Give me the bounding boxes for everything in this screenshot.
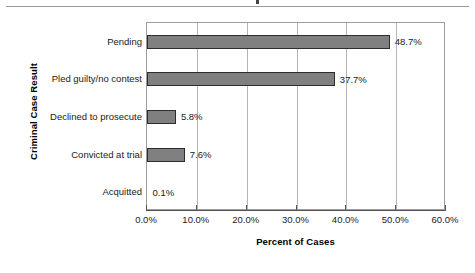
bar-value-label: 5.8% — [181, 110, 203, 124]
category-label: Convicted at trial — [2, 136, 142, 174]
x-axis-tick — [345, 205, 346, 211]
clipped-title-descender — [256, 0, 259, 4]
bar — [147, 110, 176, 124]
x-axis-tick — [395, 205, 396, 211]
x-axis-tick — [246, 205, 247, 211]
bar-row: Pending48.7% — [147, 23, 444, 61]
category-label: Acquitted — [2, 173, 142, 211]
category-label: Pending — [2, 23, 142, 61]
bar-row: Pled guilty/no contest37.7% — [147, 61, 444, 99]
bar-value-label: 37.7% — [340, 72, 367, 86]
bar-value-label: 7.6% — [190, 148, 212, 162]
bar — [147, 72, 335, 86]
x-axis-tick-label: 60.0% — [415, 214, 475, 225]
bar-value-label: 48.7% — [395, 35, 422, 49]
x-axis-tick — [296, 205, 297, 211]
category-label: Declined to prosecute — [2, 98, 142, 136]
category-label: Pled guilty/no contest — [2, 61, 142, 99]
plot-area: Pending48.7%Pled guilty/no contest37.7%D… — [146, 22, 445, 210]
x-axis-title: Percent of Cases — [146, 236, 445, 247]
x-axis-tick — [445, 205, 446, 211]
bar-value-label: 0.1% — [152, 185, 174, 199]
bar-row: Declined to prosecute5.8% — [147, 98, 444, 136]
x-axis-tick — [196, 205, 197, 211]
x-axis-tick — [146, 205, 147, 211]
figure-top-rule — [6, 6, 469, 7]
bar — [147, 35, 390, 49]
bar — [147, 148, 185, 162]
bar-row: Convicted at trial7.6% — [147, 136, 444, 174]
